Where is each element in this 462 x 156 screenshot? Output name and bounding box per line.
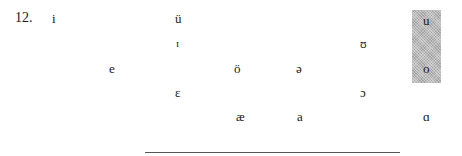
vowel-small-cap-i: ɪ <box>176 38 179 49</box>
vowel-e: e <box>109 62 115 75</box>
vowel-a: a <box>297 110 303 123</box>
vowel-open-o: ɔ <box>360 86 366 99</box>
vowel-chart-exercise: 12. i ü u ɪ ʊ e ö ə o ɛ ɔ æ a ɑ <box>0 0 462 156</box>
vowel-epsilon: ɛ <box>175 86 180 99</box>
vowel-script-a: ɑ <box>423 110 430 123</box>
vowel-upsilon: ʊ <box>360 38 367 50</box>
vowel-o-umlaut: ö <box>234 62 241 75</box>
vowel-u-umlaut: ü <box>175 12 182 25</box>
vowel-u: u <box>423 14 430 27</box>
vowel-o: o <box>423 62 430 75</box>
vowel-i: i <box>52 12 56 25</box>
vowel-schwa: ə <box>296 62 302 75</box>
vowel-ash: æ <box>236 110 245 123</box>
answer-line <box>145 152 400 153</box>
exercise-number: 12. <box>15 11 33 25</box>
